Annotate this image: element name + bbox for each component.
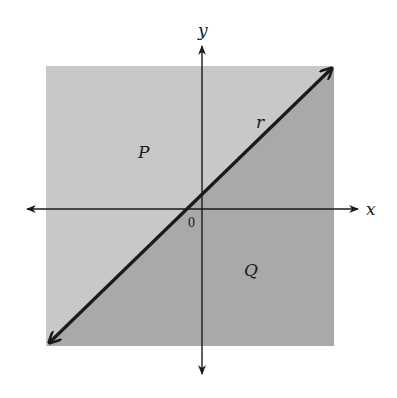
y-axis-label: y: [197, 20, 208, 40]
region-q-label: Q: [244, 260, 258, 280]
line-r-label: r: [256, 112, 265, 132]
origin-label: 0: [188, 215, 195, 230]
coordinate-diagram: y x 0 r P Q: [0, 0, 397, 398]
x-axis-label: x: [366, 199, 376, 219]
region-p-label: P: [137, 142, 150, 162]
